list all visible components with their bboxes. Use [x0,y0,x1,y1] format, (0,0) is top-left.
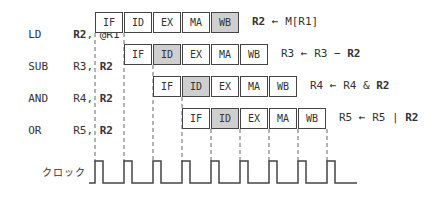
stage-ma: MA [211,44,239,65]
clock-label: クロック [42,164,86,179]
note-lhs: R5 [339,111,352,124]
stage-ma: MA [240,76,268,97]
note-operator: & [356,79,376,92]
stage-wb: WB [240,44,268,65]
note-sub: R3 ← R3 − R2 [281,47,361,60]
note-rhs: R3 [314,47,327,60]
note-rhs2: R2 [347,47,360,60]
stage-if: IF [153,76,181,97]
arrow-icon: ← [265,15,285,28]
note-rhs: M[R1] [285,15,318,28]
arrow-icon: ← [323,79,343,92]
stage-ma: MA [269,108,297,129]
arrow-icon: ← [352,111,372,124]
note-rhs2: R2 [376,79,389,92]
note-lhs: R3 [281,47,294,60]
stage-if: IF [124,44,152,65]
stage-ma: MA [182,12,210,33]
stage-if: IF [182,108,210,129]
stage-wb: WB [298,108,326,129]
note-operator: − [327,47,347,60]
arrow-icon: ← [294,47,314,60]
note-lhs: R4 [310,79,323,92]
stage-id: ID [124,12,152,33]
note-rhs: R4 [343,79,356,92]
clock-waveform [89,161,357,183]
stage-id-highlighted: ID [211,108,239,129]
note-ld: R2 ← M[R1] [252,15,318,28]
stage-ex: EX [182,44,210,65]
note-rhs: R5 [372,111,385,124]
stage-wb: WB [269,76,297,97]
stage-ex: EX [240,108,268,129]
stage-wb-highlighted: WB [211,12,239,33]
stage-ex: EX [211,76,239,97]
stage-ex: EX [153,12,181,33]
note-or: R5 ← R5 | R2 [339,111,419,124]
stage-if: IF [95,12,123,33]
stage-id-highlighted: ID [182,76,210,97]
note-and: R4 ← R4 & R2 [310,79,390,92]
note-rhs2: R2 [405,111,418,124]
stage-id-highlighted: ID [153,44,181,65]
note-operator: | [385,111,405,124]
note-lhs: R2 [252,15,265,28]
